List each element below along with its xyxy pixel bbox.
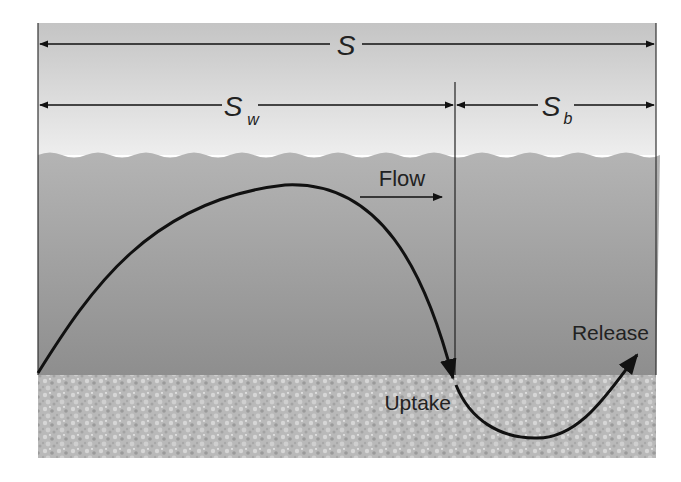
uptake-label: Uptake [384, 391, 451, 414]
total-length-label: S [337, 30, 356, 61]
flow-label: Flow [379, 166, 426, 191]
benthic-length-label: S [542, 91, 561, 122]
spiraling-length-diagram: S S w S b Flow Uptake Release [0, 0, 681, 482]
benthic-length-subscript: b [564, 110, 573, 127]
water-region [38, 153, 660, 376]
sediment-bed [38, 375, 656, 458]
water-length-subscript: w [247, 111, 260, 128]
release-label: Release [572, 321, 649, 344]
water-length-label: S [224, 91, 243, 122]
